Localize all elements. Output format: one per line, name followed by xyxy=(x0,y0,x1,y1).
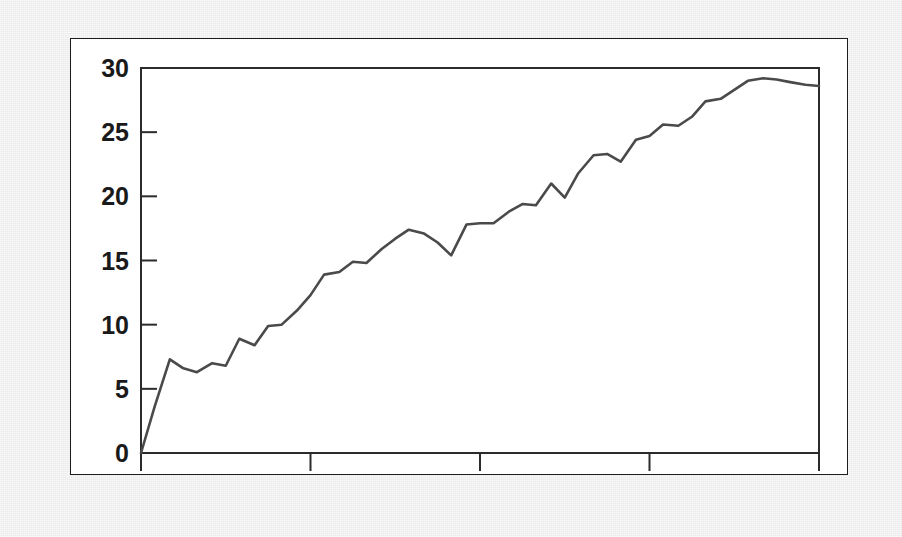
y-tick-label: 20 xyxy=(101,182,129,210)
y-tick-label: 0 xyxy=(115,439,129,467)
y-tick-label: 25 xyxy=(101,118,129,146)
y-tick-label: 15 xyxy=(101,247,129,275)
line-chart: 05101520253019861987198819891990 xyxy=(71,39,847,474)
data-series-line xyxy=(141,78,819,453)
y-tick-label: 30 xyxy=(101,54,129,82)
plot-frame xyxy=(141,68,819,453)
y-tick-label: 10 xyxy=(101,311,129,339)
y-tick-label: 5 xyxy=(115,375,129,403)
figure-panel: 05101520253019861987198819891990 xyxy=(70,38,848,475)
